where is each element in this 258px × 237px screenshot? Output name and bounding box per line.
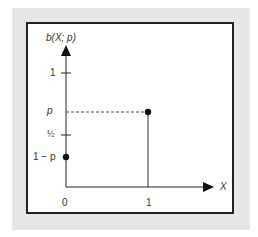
y-tick-label-1: 1 (50, 68, 56, 78)
x-tick-label-1: 1 (146, 198, 152, 208)
y-axis-label: b(X; p) (46, 33, 76, 43)
x-tick-label-0: 0 (62, 198, 68, 208)
y-tick-label-half: ½ (47, 130, 55, 139)
y-tick-label-p: p (47, 106, 53, 116)
point-x0-1mp (63, 154, 69, 160)
y-axis-arrow-icon (61, 45, 71, 56)
y-tick-label-1-minus-p: 1 − p (33, 152, 56, 162)
pmf-plot (0, 0, 258, 237)
point-x1-p (145, 109, 151, 115)
x-axis-arrow-icon (203, 182, 214, 192)
x-axis-label: X (220, 182, 227, 192)
